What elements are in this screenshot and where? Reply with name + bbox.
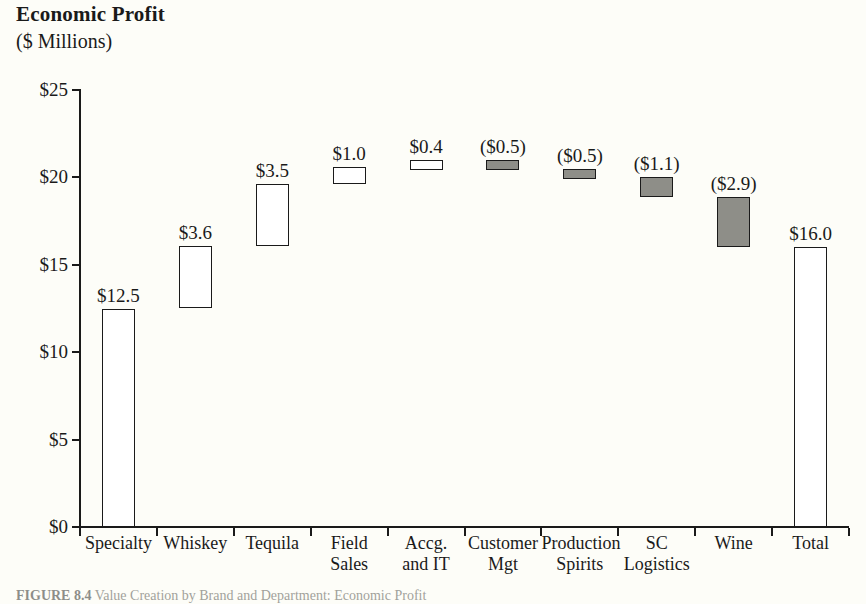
category-label-line: Spirits [541, 554, 618, 575]
bar-value-label: ($1.1) [607, 154, 707, 173]
x-axis-category-label: FieldSales [311, 533, 388, 575]
x-axis-category-label: Total [772, 533, 849, 554]
x-axis-category-label: Specialty [80, 533, 157, 554]
category-label-line: Customer [465, 533, 542, 554]
waterfall-bar[interactable] [102, 309, 135, 528]
x-axis-category-label: Tequila [234, 533, 311, 554]
waterfall-bar[interactable] [717, 197, 750, 248]
category-label-line: Mgt [465, 554, 542, 575]
y-axis-tick-label: $25 [0, 80, 68, 99]
waterfall-bar[interactable] [563, 169, 596, 179]
waterfall-bar[interactable] [333, 167, 366, 184]
x-axis-category-label: Whiskey [157, 533, 234, 554]
y-axis-line [79, 90, 81, 528]
category-label-line: Tequila [234, 533, 311, 554]
category-label-line: Accg. [388, 533, 465, 554]
y-axis-tick-label: $5 [0, 430, 68, 449]
x-axis-category-label: ProductionSpirits [541, 533, 618, 575]
y-axis-tick-label: $15 [0, 255, 68, 274]
figure-number: FIGURE 8.4 [16, 588, 91, 603]
y-axis-tick-label: $0 [0, 517, 68, 536]
category-label-line: Sales [311, 554, 388, 575]
waterfall-bar[interactable] [410, 160, 443, 170]
figure-caption: FIGURE 8.4 Value Creation by Brand and D… [16, 588, 426, 604]
waterfall-bar[interactable] [794, 247, 827, 527]
category-label-line: and IT [388, 554, 465, 575]
category-label-line: Specialty [80, 533, 157, 554]
x-axis-category-label: CustomerMgt [465, 533, 542, 575]
y-axis-tick-label: $20 [0, 167, 68, 186]
y-axis-tick [72, 176, 81, 178]
category-label-line: Whiskey [157, 533, 234, 554]
category-label-line: Field [311, 533, 388, 554]
waterfall-bar[interactable] [179, 246, 212, 309]
category-label-line: Production [541, 533, 618, 554]
bar-value-label: $3.5 [222, 161, 322, 180]
bar-value-label: $16.0 [761, 224, 861, 243]
x-axis-category-label: Accg.and IT [388, 533, 465, 575]
waterfall-bar[interactable] [486, 160, 519, 170]
waterfall-bar[interactable] [256, 184, 289, 245]
plot-area: $0$5$10$15$20$25 $12.5$3.6$3.5$1.0$0.4($… [0, 0, 866, 604]
y-axis-tick-label: $10 [0, 342, 68, 361]
bar-value-label: ($2.9) [684, 174, 784, 193]
figure-caption-text: Value Creation by Brand and Department: … [95, 588, 427, 603]
y-axis-tick [72, 351, 81, 353]
y-axis-tick [72, 89, 81, 91]
y-axis-tick [72, 264, 81, 266]
category-label-line: Wine [695, 533, 772, 554]
x-axis-category-label: SCLogistics [618, 533, 695, 575]
category-label-line: SC [618, 533, 695, 554]
bar-value-label: $3.6 [145, 223, 245, 242]
figure-economic-profit-waterfall: Economic Profit ($ Millions) $0$5$10$15$… [0, 0, 866, 604]
category-label-line: Logistics [618, 554, 695, 575]
x-axis-category-label: Wine [695, 533, 772, 554]
y-axis-tick [72, 439, 81, 441]
category-label-line: Total [772, 533, 849, 554]
waterfall-bar[interactable] [640, 177, 673, 196]
bar-value-label: $12.5 [68, 286, 168, 305]
